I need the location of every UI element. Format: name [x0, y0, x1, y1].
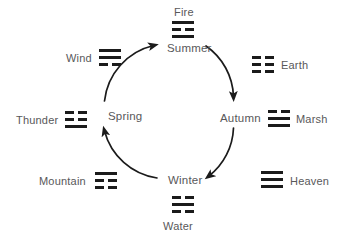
trigram-label-water: Water: [163, 220, 193, 233]
trigram-label-earth: Earth: [281, 59, 308, 72]
trigram-line: [261, 178, 283, 181]
trigram-glyph-earth: [252, 56, 274, 73]
trigram-line: [172, 203, 194, 206]
trigram-glyph-wind: [99, 49, 121, 66]
trigram-line: [268, 117, 290, 120]
trigram-line: [268, 124, 290, 127]
trigram-line: [261, 171, 283, 174]
arrow-autumn-to-winter: [209, 128, 234, 176]
trigram-label-marsh: Marsh: [296, 113, 328, 126]
trigram-line: [99, 49, 121, 52]
trigram-line: [65, 125, 87, 128]
trigram-line: [95, 186, 117, 189]
trigram-line: [172, 35, 194, 38]
trigram-line: [172, 21, 194, 24]
trigram-label-mountain: Mountain: [39, 175, 86, 188]
trigram-label-thunder: Thunder: [16, 114, 58, 127]
trigram-line: [252, 63, 274, 66]
trigram-label-fire: Fire: [174, 6, 194, 19]
trigram-glyph-heaven: [261, 171, 283, 188]
trigram-line: [172, 28, 194, 31]
trigram-line: [268, 110, 290, 113]
trigram-glyph-marsh: [268, 110, 290, 127]
trigram-line: [252, 70, 274, 73]
trigram-line: [65, 111, 87, 114]
trigram-line: [172, 210, 194, 213]
trigram-label-wind: Wind: [66, 52, 92, 65]
trigram-label-heaven: Heaven: [290, 175, 329, 188]
season-label-summer: Summer: [167, 42, 212, 55]
trigram-line: [252, 56, 274, 59]
trigram-line: [95, 179, 117, 182]
trigram-line: [99, 56, 121, 59]
trigram-line: [99, 63, 121, 66]
trigram-line: [95, 172, 117, 175]
trigram-line: [172, 196, 194, 199]
season-label-autumn: Autumn: [220, 112, 261, 125]
trigram-line: [65, 118, 87, 121]
trigram-glyph-thunder: [65, 111, 87, 128]
trigram-line: [261, 185, 283, 188]
trigram-glyph-fire: [172, 21, 194, 38]
season-label-winter: Winter: [168, 174, 202, 187]
trigram-glyph-water: [172, 196, 194, 213]
season-label-spring: Spring: [108, 110, 142, 123]
arrow-winter-to-spring: [105, 131, 158, 178]
trigram-glyph-mountain: [95, 172, 117, 189]
trigram-season-cycle-diagram: Spring Summer Autumn Winter Fire Earth M…: [0, 0, 344, 242]
